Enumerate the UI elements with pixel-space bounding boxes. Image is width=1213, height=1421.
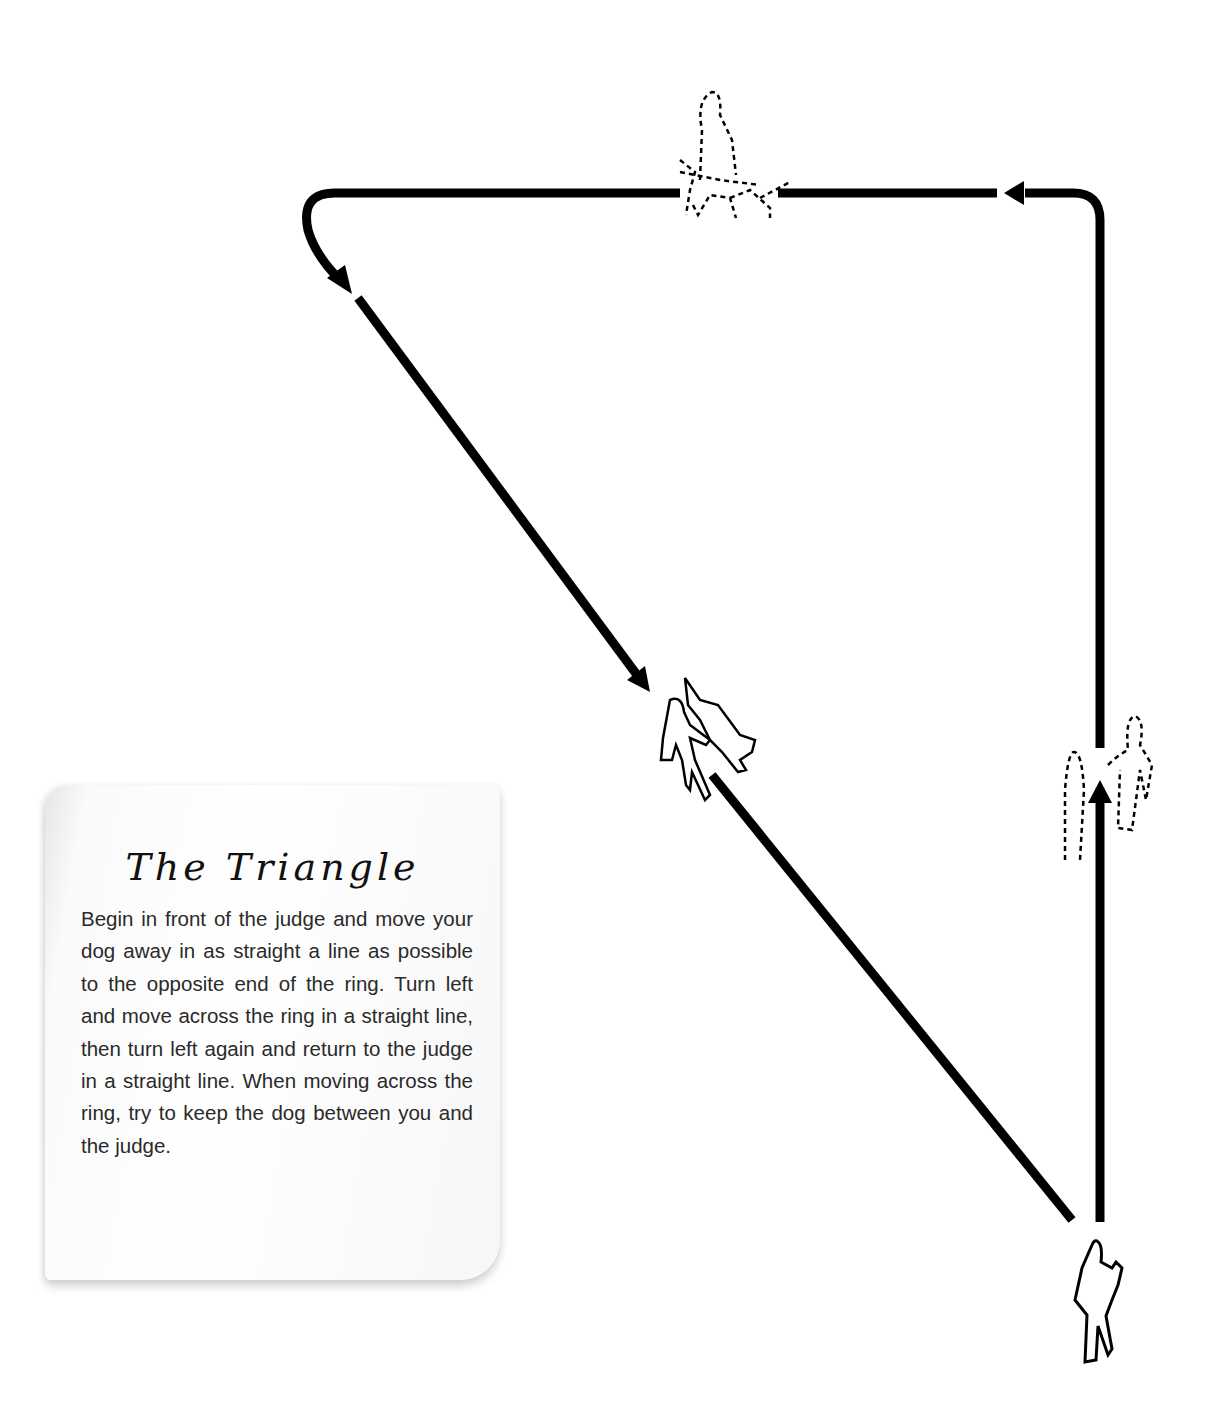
judge-icon [1075, 1241, 1122, 1362]
arrow-up-icon [1088, 780, 1112, 803]
note-body: Begin in front of the judge and move you… [81, 903, 473, 1162]
instruction-note: The Triangle Begin in front of the judge… [45, 785, 500, 1280]
note-title: The Triangle [45, 845, 500, 889]
path-leg-across [307, 193, 997, 294]
handler-dog-returning-icon [661, 678, 755, 800]
handler-dog-away-icon [1065, 716, 1152, 860]
path-leg-up [1004, 181, 1112, 1222]
handler-dog-crossing-icon [680, 92, 790, 218]
arrow-left-icon [1004, 181, 1024, 205]
